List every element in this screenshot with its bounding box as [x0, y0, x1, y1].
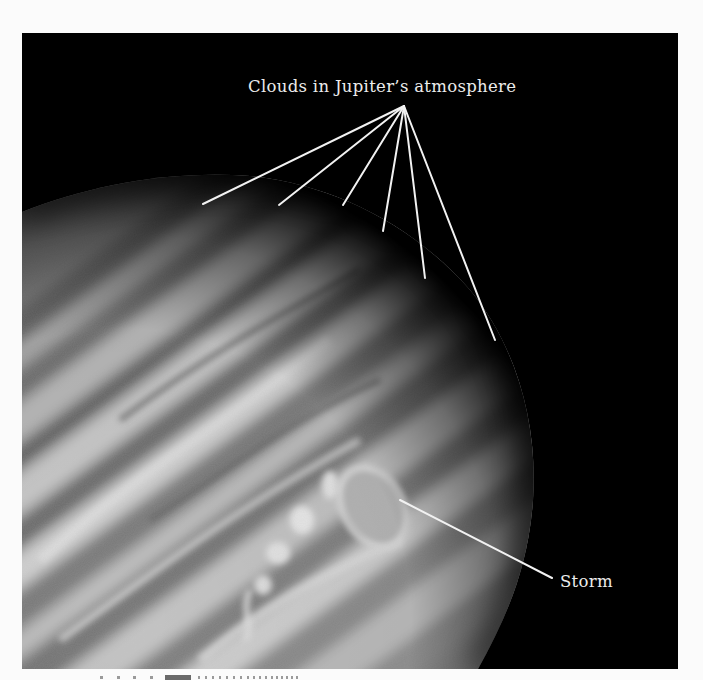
jupiter-photo-figure: Clouds in Jupiter’s atmosphere Storm: [22, 33, 678, 669]
print-registration-strip: [95, 675, 315, 680]
storm-label: Storm: [560, 572, 613, 591]
clouds-label: Clouds in Jupiter’s atmosphere: [248, 77, 516, 96]
